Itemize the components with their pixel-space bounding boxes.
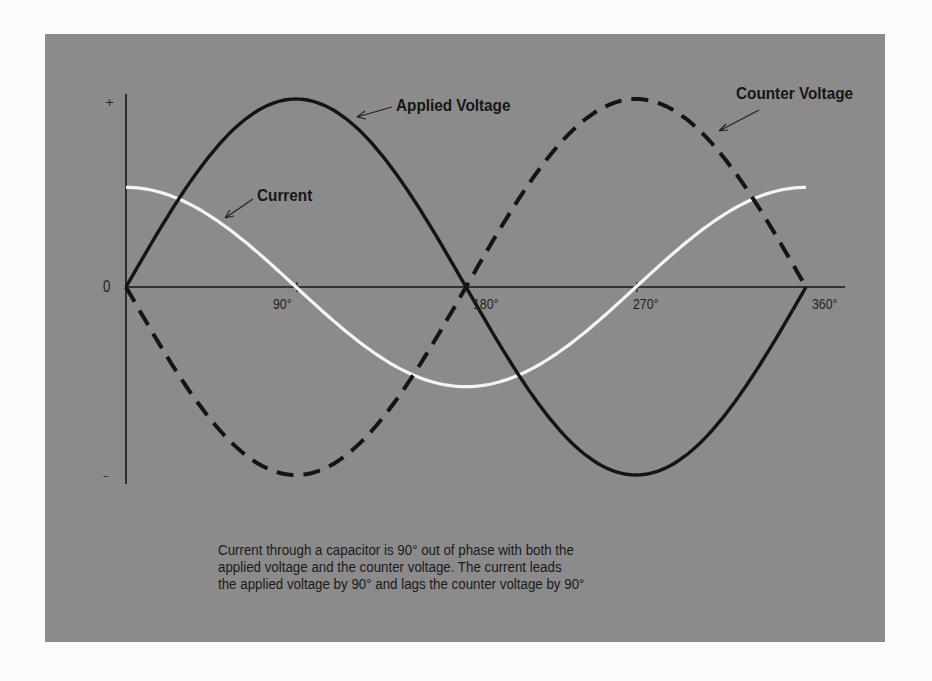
y-axis-minus-label: – (103, 469, 109, 482)
x-tick-360-label: 360° (812, 295, 837, 312)
caption-line-3: the applied voltage by 90° and lags the … (218, 575, 665, 592)
caption-line-1: Current through a capacitor is 90° out o… (218, 541, 665, 558)
applied-voltage-arrow (357, 107, 392, 119)
axes (126, 94, 845, 484)
x-tick-270-label: 270° (633, 295, 658, 312)
origin-zero-label: 0 (103, 278, 110, 296)
x-tick-90-label: 90° (273, 295, 292, 312)
caption-line-2: applied voltage and the counter voltage.… (218, 558, 665, 575)
counter-voltage-label: Counter Voltage (736, 84, 853, 104)
counter-voltage-arrow (719, 110, 759, 131)
current-arrow (225, 199, 253, 218)
current-label: Current (257, 186, 312, 206)
x-tick-180-label: 180° (473, 295, 498, 312)
figure-caption: Current through a capacitor is 90° out o… (218, 541, 665, 592)
y-axis-plus-label: + (105, 96, 114, 109)
applied-voltage-label: Applied Voltage (396, 96, 510, 116)
